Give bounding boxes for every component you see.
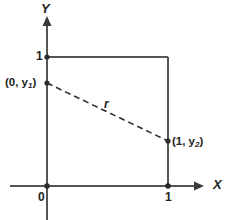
distance-segment-r (47, 83, 168, 141)
geometry-figure: Y X 1 0 1 (0, y1) (1, y2) r (0, 0, 229, 220)
point-marker-y-one (44, 54, 49, 59)
x-axis-label: X (213, 178, 222, 191)
right-point-label-close: ) (199, 135, 203, 147)
y-axis-arrowhead (43, 16, 52, 26)
left-point-label-close: ) (32, 76, 36, 88)
right-point-label-main: (1, y (172, 135, 195, 147)
left-point-label: (0, y1) (5, 77, 36, 89)
point-marker-right (165, 138, 170, 143)
x-axis-arrowhead (194, 182, 204, 191)
x-tick-label-1: 1 (165, 191, 172, 203)
point-marker-origin (44, 183, 50, 189)
right-point-label-subscript: 2 (195, 140, 199, 149)
left-point-label-subscript: 1 (28, 81, 32, 90)
left-point-label-main: (0, y (5, 76, 28, 88)
point-marker-x-one (165, 183, 171, 189)
figure-canvas (0, 0, 229, 220)
right-point-label: (1, y2) (172, 136, 203, 148)
segment-label-r: r (104, 98, 109, 110)
y-axis-label: Y (41, 2, 50, 15)
point-marker-left (44, 80, 49, 85)
origin-label: 0 (38, 191, 45, 203)
y-tick-label-1: 1 (36, 50, 43, 62)
